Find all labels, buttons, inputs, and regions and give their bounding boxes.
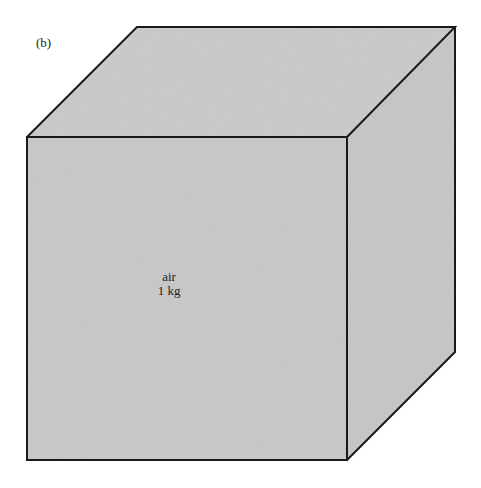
contents-label: air [162, 269, 176, 284]
mass-label: 1 kg [158, 283, 181, 298]
cube-diagram: (b) air 1 kg [0, 0, 481, 488]
cube-front-face [27, 137, 347, 460]
panel-label: (b) [36, 35, 51, 50]
